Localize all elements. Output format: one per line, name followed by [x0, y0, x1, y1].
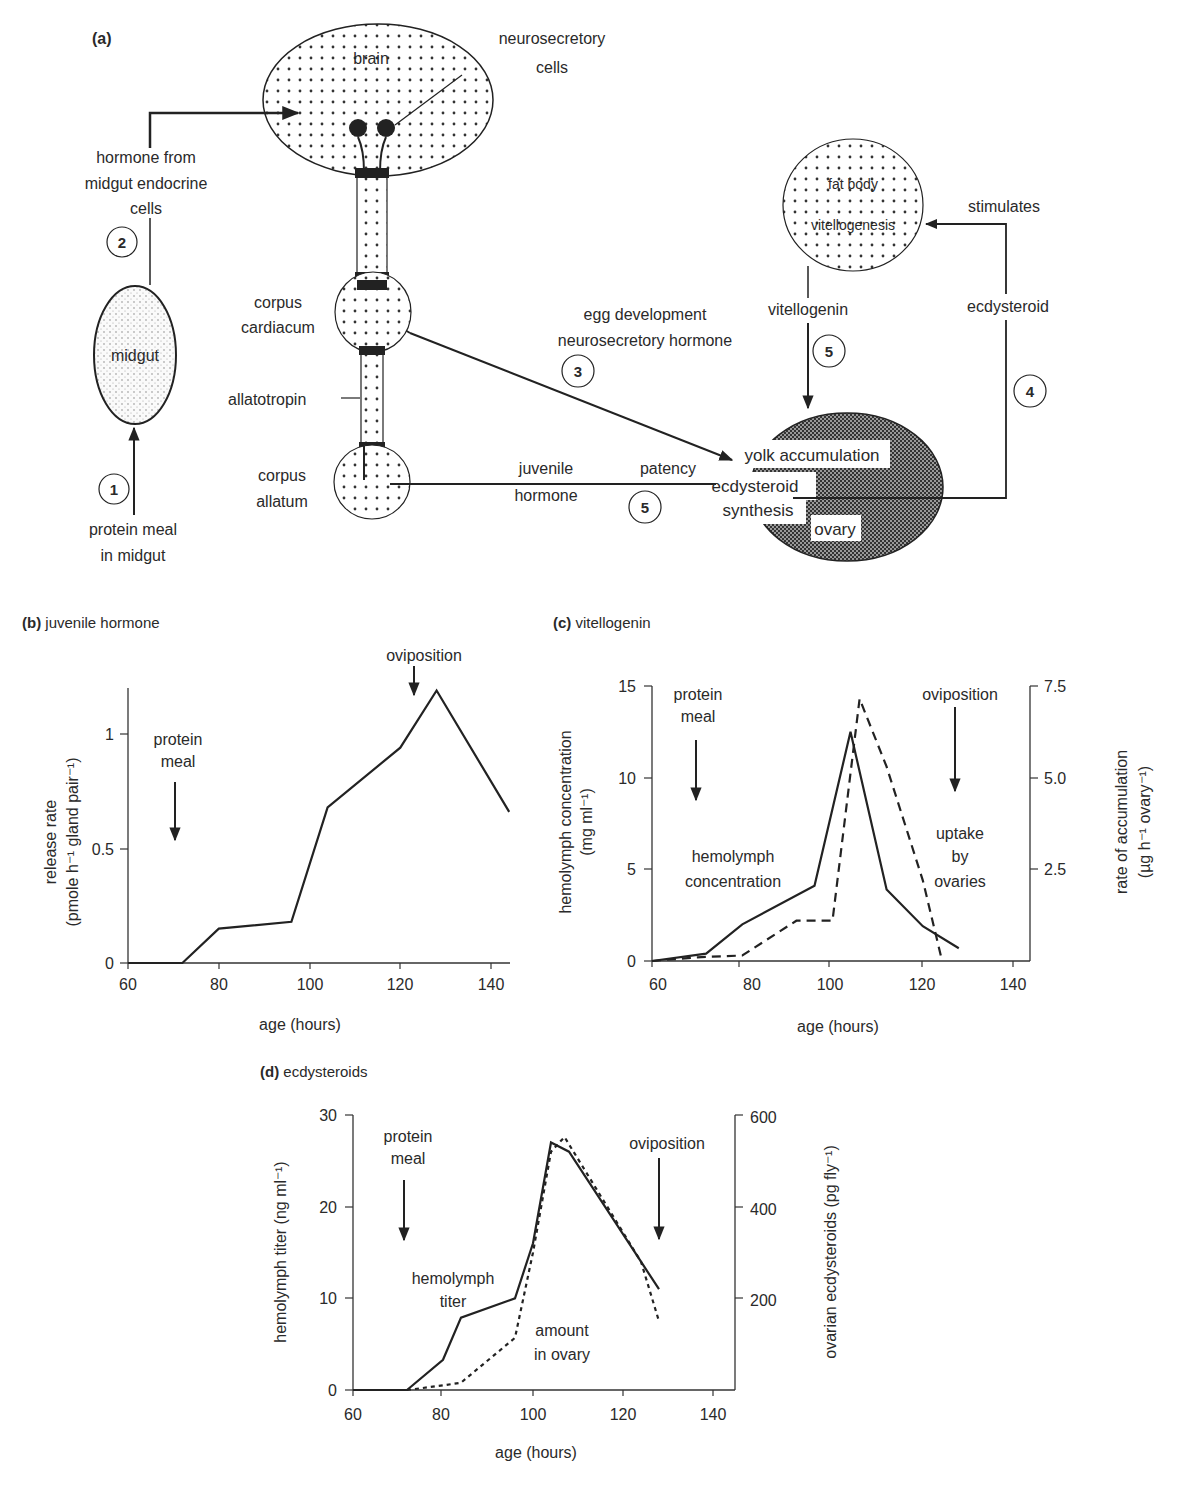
chart-b-y-label-2: (pmole h⁻¹ gland pair⁻¹) — [64, 758, 81, 927]
svg-text:0.5: 0.5 — [92, 841, 114, 858]
patency-label: patency — [640, 460, 696, 477]
svg-text:7.5: 7.5 — [1044, 678, 1066, 695]
svg-text:meal: meal — [681, 708, 716, 725]
chart-c-vitellogenin: (c) vitellogenin 6080100120140 051015 2.… — [553, 614, 1153, 1035]
chart-d-x-label: age (hours) — [495, 1444, 577, 1461]
hormone-from-label-1: hormone from — [96, 149, 196, 166]
ecdysteroid-synthesis-label-1: ecdysteroid — [712, 477, 799, 496]
svg-text:60: 60 — [119, 976, 137, 993]
svg-text:80: 80 — [432, 1406, 450, 1423]
vitellogenesis-label: vitellogenesis — [811, 217, 895, 233]
svg-text:60: 60 — [344, 1406, 362, 1423]
svg-text:120: 120 — [610, 1406, 637, 1423]
chart-c-x-label: age (hours) — [797, 1018, 879, 1035]
egg-development-label-1: egg development — [584, 306, 707, 323]
svg-text:400: 400 — [750, 1201, 777, 1218]
svg-text:protein: protein — [384, 1128, 433, 1145]
svg-text:hemolymph: hemolymph — [412, 1270, 495, 1287]
chart-c-uptake-line — [652, 699, 941, 961]
svg-text:titer: titer — [440, 1293, 467, 1310]
egg-development-label-2: neurosecretory hormone — [558, 332, 732, 349]
svg-text:in ovary: in ovary — [534, 1346, 590, 1363]
svg-text:protein: protein — [154, 731, 203, 748]
svg-text:uptake: uptake — [936, 825, 984, 842]
neurosecretory-cell-right — [377, 119, 395, 137]
svg-text:amount: amount — [535, 1322, 589, 1339]
svg-text:5: 5 — [825, 343, 833, 360]
svg-text:0: 0 — [328, 1382, 337, 1399]
nerve-tract-lower — [361, 350, 383, 448]
svg-text:2: 2 — [118, 234, 126, 251]
chart-c-x-ticks: 6080100120140 — [649, 976, 1026, 993]
midgut-label: midgut — [111, 347, 160, 364]
ovary-label: ovary — [814, 520, 856, 539]
svg-text:1: 1 — [110, 481, 118, 498]
chart-c-y-right-ticks: 2.55.07.5 — [1044, 678, 1066, 878]
svg-text:2.5: 2.5 — [1044, 861, 1066, 878]
juvenile-hormone-label-2: hormone — [514, 487, 577, 504]
svg-text:protein: protein — [674, 686, 723, 703]
svg-text:80: 80 — [743, 976, 761, 993]
svg-text:10: 10 — [618, 770, 636, 787]
chart-c-y-right-label-2: (µg h⁻¹ ovary⁻¹) — [1136, 766, 1153, 878]
panel-a-label: (a) — [92, 30, 112, 47]
svg-text:10: 10 — [319, 1290, 337, 1307]
hormone-from-label-3: cells — [130, 200, 162, 217]
ecdysteroid-synthesis-label-2: synthesis — [723, 501, 794, 520]
svg-text:30: 30 — [319, 1107, 337, 1124]
svg-text:by: by — [952, 848, 969, 865]
svg-text:140: 140 — [700, 1406, 727, 1423]
svg-text:600: 600 — [750, 1109, 777, 1126]
protein-meal-label-2: in midgut — [101, 547, 166, 564]
svg-text:100: 100 — [520, 1406, 547, 1423]
svg-text:5: 5 — [641, 499, 649, 516]
chart-d-x-ticks: 6080100120140 — [344, 1406, 726, 1423]
stimulates-label: stimulates — [968, 198, 1040, 215]
chart-c-title: (c) vitellogenin — [553, 614, 651, 631]
corpus-allatum-label-1: corpus — [258, 467, 306, 484]
ecdysteroid-label: ecdysteroid — [967, 298, 1049, 315]
chart-d-y-right-label: ovarian ecdysteroids (pg fly⁻¹) — [822, 1145, 839, 1358]
chart-b-title: (b) juvenile hormone — [22, 614, 160, 631]
svg-text:hemolymph: hemolymph — [692, 848, 775, 865]
chart-c-y-label-1: hemolymph concentration — [557, 730, 574, 913]
chart-d-y-label: hemolymph titer (ng ml⁻¹) — [272, 1161, 289, 1342]
corpus-cardiacum-label-1: corpus — [254, 294, 302, 311]
yolk-accumulation-label: yolk accumulation — [744, 446, 879, 465]
brain-shape — [263, 24, 493, 176]
chart-d-title: (d) ecdysteroids — [260, 1063, 368, 1080]
svg-text:meal: meal — [161, 753, 196, 770]
chart-b-y-ticks: 00.51 — [92, 726, 114, 972]
chart-b-juvenile-hormone: (b) juvenile hormone 6080100120140 00.51… — [22, 614, 510, 1033]
fat-body-shape — [783, 139, 923, 271]
svg-text:oviposition: oviposition — [386, 647, 462, 664]
svg-text:120: 120 — [387, 976, 414, 993]
svg-text:140: 140 — [478, 976, 505, 993]
svg-text:5: 5 — [627, 861, 636, 878]
svg-text:oviposition: oviposition — [922, 686, 998, 703]
svg-text:3: 3 — [574, 363, 582, 380]
brain-label: brain — [353, 50, 389, 67]
svg-text:0: 0 — [105, 955, 114, 972]
chart-d-ecdysteroids: (d) ecdysteroids 6080100120140 0102030 2… — [260, 1063, 839, 1461]
protein-meal-label-1: protein meal — [89, 521, 177, 538]
svg-text:4: 4 — [1026, 383, 1035, 400]
arrow-ecdysteroid-to-fat-body — [926, 224, 1006, 294]
svg-text:140: 140 — [1000, 976, 1027, 993]
figure-canvas: (a) brain neurosecretory cells corpus ca… — [0, 0, 1183, 1485]
chart-b-x-label: age (hours) — [259, 1016, 341, 1033]
arrow-cc-to-ovary — [410, 333, 732, 460]
hormone-from-label-2: midgut endocrine — [85, 175, 208, 192]
corpus-allatum-shape — [334, 445, 410, 519]
svg-text:20: 20 — [319, 1199, 337, 1216]
nerve-tract-upper — [357, 172, 387, 278]
svg-text:meal: meal — [391, 1150, 426, 1167]
svg-text:60: 60 — [649, 976, 667, 993]
chart-d-y-ticks: 0102030 — [319, 1107, 337, 1399]
vitellogenin-label: vitellogenin — [768, 301, 848, 318]
chart-c-y-label-2: (mg ml⁻¹) — [578, 788, 595, 856]
svg-text:1: 1 — [105, 726, 114, 743]
chart-d-y-right-ticks: 200400600 — [750, 1109, 777, 1309]
svg-text:200: 200 — [750, 1292, 777, 1309]
neurosecretory-label-2: cells — [536, 59, 568, 76]
